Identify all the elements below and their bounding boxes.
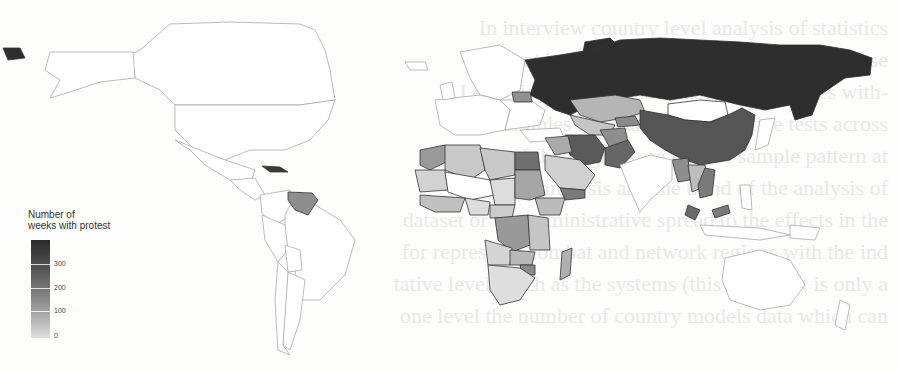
belarus <box>512 92 532 102</box>
libya <box>480 148 515 180</box>
nigeria <box>465 198 490 215</box>
central-america <box>230 178 265 200</box>
chukotka <box>3 48 25 60</box>
philippines <box>740 185 752 210</box>
sudan <box>515 170 545 200</box>
myanmar <box>672 158 690 182</box>
ethiopia <box>535 198 565 215</box>
mali-niger <box>445 172 495 200</box>
borneo-malaysia <box>712 205 730 218</box>
iraq-syria <box>545 136 572 155</box>
kyrgyzstan <box>615 116 640 127</box>
peru <box>262 215 288 262</box>
legend-title-line2: weeks with protest <box>28 220 110 231</box>
tick-300: 300 <box>54 260 66 267</box>
alaska <box>45 52 135 98</box>
legend: Number of weeks with protest 300 200 100… <box>30 209 110 231</box>
tick-0: 0 <box>54 332 58 339</box>
western-europe <box>435 95 510 135</box>
iceland <box>405 62 428 70</box>
new-guinea <box>790 225 820 240</box>
indonesia <box>700 225 790 240</box>
malaysia <box>685 205 700 220</box>
tick-mark <box>31 311 50 312</box>
japan <box>755 118 775 150</box>
india <box>620 155 672 212</box>
canada <box>130 22 335 105</box>
new-zealand <box>835 300 850 330</box>
legend-colorbar <box>31 240 50 338</box>
cuba <box>262 166 288 172</box>
chad <box>490 178 515 205</box>
australia <box>722 250 805 310</box>
west-africa <box>420 195 465 212</box>
madagascar <box>560 248 572 280</box>
western-sahara-mauritania <box>415 170 448 192</box>
tick-mark <box>31 288 50 289</box>
legend-title-line1: Number of <box>28 209 110 220</box>
zambia <box>510 250 535 265</box>
world-map <box>0 0 898 371</box>
central-african-rep <box>490 205 515 218</box>
egypt <box>515 152 540 170</box>
tick-200: 200 <box>54 284 66 291</box>
tick-mark <box>31 264 50 265</box>
uk <box>440 82 455 100</box>
tick-100: 100 <box>54 307 66 314</box>
kenya-tanzania <box>528 215 550 250</box>
